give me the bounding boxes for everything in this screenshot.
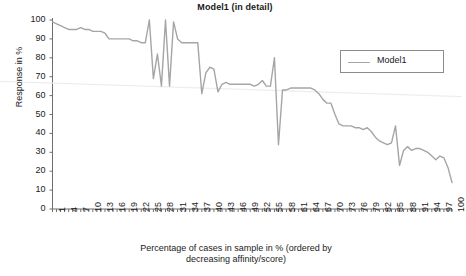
- x-tick-label: 70: [335, 202, 345, 212]
- x-tick-label: 76: [359, 202, 369, 212]
- y-tick-label: 40: [20, 127, 46, 137]
- x-axis-title-line2: decreasing affinity/score): [186, 254, 286, 264]
- x-tick-label: 28: [165, 202, 175, 212]
- axes-layer: [50, 18, 453, 212]
- x-tick-label: 46: [238, 202, 248, 212]
- chart-title: Model1 (in detail): [130, 2, 340, 12]
- y-tick-label: 0: [20, 203, 46, 213]
- x-tick-label: 4: [69, 207, 79, 212]
- x-tick-label: 82: [383, 202, 393, 212]
- x-tick-label: 64: [311, 202, 321, 212]
- x-tick-label: 34: [190, 202, 200, 212]
- x-tick-label: 40: [214, 202, 224, 212]
- x-tick-label: 100: [456, 197, 466, 212]
- x-tick-label: 22: [141, 202, 151, 212]
- x-tick-label: 94: [432, 202, 442, 212]
- x-tick-label: 79: [371, 202, 381, 212]
- legend-line-sample: [348, 62, 370, 63]
- x-tick-label: 52: [262, 202, 272, 212]
- x-tick-label: 61: [299, 202, 309, 212]
- x-tick-label: 19: [129, 202, 139, 212]
- legend: Model1: [340, 50, 444, 73]
- y-tick-label: 80: [20, 52, 46, 62]
- y-tick-label: 70: [20, 71, 46, 81]
- y-tick-label: 50: [20, 109, 46, 119]
- x-tick-label: 1: [57, 207, 67, 212]
- x-tick-label: 67: [323, 202, 333, 212]
- x-tick-label: 88: [408, 202, 418, 212]
- series-path-model1: [53, 20, 453, 183]
- y-tick-label: 20: [20, 165, 46, 175]
- x-tick-label: 31: [178, 202, 188, 212]
- x-tick-label: 43: [226, 202, 236, 212]
- model1-series-line: [53, 20, 453, 183]
- x-tick-label: 37: [202, 202, 212, 212]
- x-tick-label: 85: [395, 202, 405, 212]
- x-tick-label: 58: [287, 202, 297, 212]
- legend-label-model1: Model1: [377, 55, 407, 65]
- x-tick-label: 55: [274, 202, 284, 212]
- x-tick-label: 13: [105, 202, 115, 212]
- x-tick-label: 91: [420, 202, 430, 212]
- y-tick-label: 90: [20, 33, 46, 43]
- x-tick-label: 16: [117, 202, 127, 212]
- y-tick-label: 30: [20, 146, 46, 156]
- x-axis-title-line1: Percentage of cases in sample in % (orde…: [140, 243, 332, 253]
- x-tick-label: 7: [81, 207, 91, 212]
- y-tick-label: 60: [20, 90, 46, 100]
- x-tick-label: 97: [444, 202, 454, 212]
- x-tick-label: 25: [153, 202, 163, 212]
- x-axis-title: Percentage of cases in sample in % (orde…: [86, 243, 386, 265]
- x-tick-label: 73: [347, 202, 357, 212]
- x-tick-label: 49: [250, 202, 260, 212]
- x-tick-label: 10: [93, 202, 103, 212]
- y-tick-label: 100: [20, 14, 46, 24]
- y-tick-label: 10: [20, 184, 46, 194]
